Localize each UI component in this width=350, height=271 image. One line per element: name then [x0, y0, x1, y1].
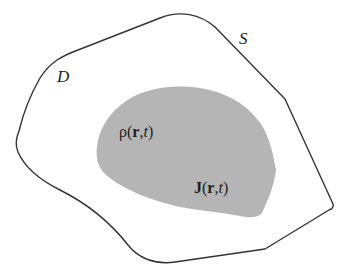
- charge-density-label: ρ(r,t): [119, 124, 153, 140]
- surface-label-S: S: [239, 30, 248, 47]
- region-label-D: D: [57, 68, 69, 85]
- paren-close: ): [148, 123, 153, 140]
- rho-symbol: ρ: [119, 123, 127, 140]
- paren-close: ): [223, 179, 228, 196]
- region-diagram: [0, 0, 350, 271]
- current-density-label: J(r,t): [194, 180, 228, 196]
- J-symbol: J: [194, 179, 202, 196]
